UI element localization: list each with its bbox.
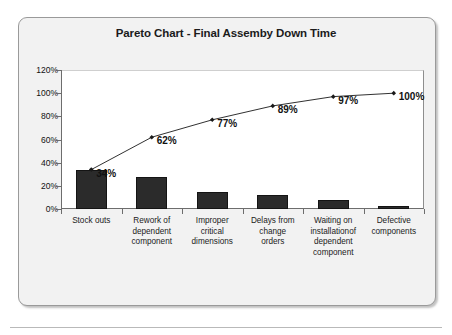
y-axis-tick-mark bbox=[56, 116, 62, 117]
category-label-line: Improper bbox=[182, 216, 243, 227]
category-label-line: Waiting on bbox=[303, 216, 364, 227]
x-axis-tick-mark bbox=[303, 209, 304, 214]
y-axis-tick-label: 60% bbox=[18, 135, 58, 145]
category-label-line: component bbox=[122, 237, 183, 248]
category-label-line: change bbox=[243, 227, 304, 238]
cumulative-value-label: 62% bbox=[157, 135, 177, 146]
cumulative-value-label: 77% bbox=[217, 117, 237, 128]
y-axis-tick-mark bbox=[56, 163, 62, 164]
category-label-line: components bbox=[364, 227, 425, 238]
y-axis-tick-label: 100% bbox=[18, 88, 58, 98]
bar bbox=[197, 192, 228, 209]
category-label-line: dimensions bbox=[182, 237, 243, 248]
category-label: Waiting oninstallationofdependentcompone… bbox=[303, 216, 364, 258]
plot-area bbox=[61, 70, 424, 209]
x-axis-tick-mark bbox=[61, 209, 62, 214]
category-label: Impropercriticaldimensions bbox=[182, 216, 243, 248]
category-label-line: component bbox=[303, 248, 364, 259]
cumulative-value-label: 97% bbox=[338, 94, 358, 105]
category-label-line: Rework of bbox=[122, 216, 183, 227]
y-axis-tick-label: 40% bbox=[18, 158, 58, 168]
x-axis-tick-mark bbox=[182, 209, 183, 214]
y-axis-tick-label: 120% bbox=[18, 65, 58, 75]
category-label: Defectivecomponents bbox=[364, 216, 425, 237]
y-axis-tick-label: 0% bbox=[18, 204, 58, 214]
y-axis-tick-mark bbox=[56, 186, 62, 187]
cumulative-value-label: 89% bbox=[278, 103, 298, 114]
bar bbox=[136, 177, 167, 209]
x-axis-tick-mark bbox=[424, 209, 425, 214]
category-label-line: installationof bbox=[303, 227, 364, 238]
x-axis-tick-mark bbox=[122, 209, 123, 214]
y-axis-tick-mark bbox=[56, 140, 62, 141]
bar bbox=[257, 195, 288, 209]
x-axis-tick-mark bbox=[364, 209, 365, 214]
cumulative-value-label: 34% bbox=[96, 167, 116, 178]
category-label-line: Defective bbox=[364, 216, 425, 227]
bar bbox=[378, 206, 409, 209]
category-label-line: orders bbox=[243, 237, 304, 248]
y-axis-tick-mark bbox=[56, 70, 62, 71]
category-label-line: dependent bbox=[303, 237, 364, 248]
category-label: Delays fromchangeorders bbox=[243, 216, 304, 248]
y-axis-tick-label: 80% bbox=[18, 111, 58, 121]
category-label-line: critical bbox=[182, 227, 243, 238]
chart-title: Pareto Chart - Final Assemby Down Time bbox=[0, 27, 452, 39]
cumulative-value-label: 100% bbox=[399, 91, 425, 102]
category-label-line: Delays from bbox=[243, 216, 304, 227]
page-divider-rule bbox=[10, 327, 442, 328]
category-label-line: Stock outs bbox=[61, 216, 122, 227]
y-axis-tick-mark bbox=[56, 93, 62, 94]
y-axis-tick-label: 20% bbox=[18, 181, 58, 191]
category-label: Stock outs bbox=[61, 216, 122, 227]
bar bbox=[318, 200, 349, 209]
category-label: Rework ofdependentcomponent bbox=[122, 216, 183, 248]
category-label-line: dependent bbox=[122, 227, 183, 238]
x-axis-tick-mark bbox=[243, 209, 244, 214]
